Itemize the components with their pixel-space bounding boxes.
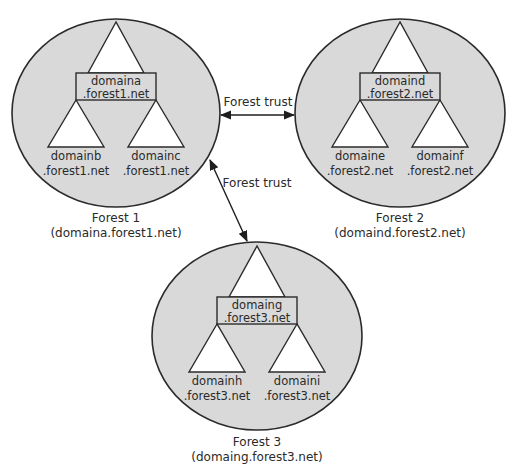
trust-forest1-forest3: Forest trust xyxy=(210,160,292,241)
domain-name: domainb xyxy=(51,149,101,163)
trust-label: Forest trust xyxy=(223,176,292,190)
forest-caption: Forest 2 xyxy=(376,211,424,225)
domain-suffix: .forest1.net xyxy=(43,164,110,178)
forest-2: domaind .forest2.net domaine .forest2.ne… xyxy=(295,19,505,240)
domain-suffix: .forest3.net xyxy=(184,389,251,403)
domain-suffix: .forest1.net xyxy=(123,164,190,178)
domain-suffix: .forest2.net xyxy=(327,164,394,178)
forest-root-caption: (domaing.forest3.net) xyxy=(191,450,322,464)
domain-suffix: .forest1.net xyxy=(83,87,150,101)
domain-name: domaina xyxy=(91,74,141,88)
domain-name: domaind xyxy=(375,74,425,88)
forest-root-caption: (domaind.forest2.net) xyxy=(334,226,465,240)
forest-trust-diagram: domaina .forest1.net domainb .forest1.ne… xyxy=(0,0,523,468)
trust-label: Forest trust xyxy=(224,95,293,109)
trust-forest1-forest2: Forest trust xyxy=(221,95,294,115)
forest-1: domaina .forest1.net domainb .forest1.ne… xyxy=(12,19,220,240)
domain-name: domaini xyxy=(274,374,320,388)
domain-name: domainh xyxy=(192,374,242,388)
forest-caption: Forest 1 xyxy=(92,211,140,225)
domain-name: domaine xyxy=(335,149,385,163)
domain-suffix: .forest3.net xyxy=(264,389,331,403)
domain-name: domaing xyxy=(232,298,282,312)
domain-suffix: .forest2.net xyxy=(367,87,434,101)
bidirectional-arrow-icon xyxy=(210,160,247,241)
domain-name: domainf xyxy=(416,149,464,163)
forest-3: domaing .forest3.net domainh .forest3.ne… xyxy=(152,242,362,464)
domain-suffix: .forest2.net xyxy=(407,164,474,178)
domain-suffix: .forest3.net xyxy=(224,311,291,325)
forest-root-caption: (domaina.forest1.net) xyxy=(50,226,181,240)
domain-name: domainc xyxy=(131,149,180,163)
forest-caption: Forest 3 xyxy=(233,435,281,449)
